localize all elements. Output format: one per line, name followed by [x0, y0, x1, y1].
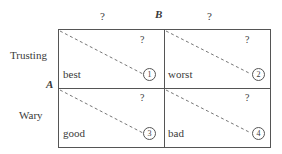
column-marker-left: ?: [100, 11, 105, 22]
cell-4-question-mark: ?: [245, 93, 249, 103]
cell-4-circled-number: 4: [252, 127, 265, 140]
cell-4-outcome-word: bad: [168, 128, 184, 139]
cell-3-question-mark: ?: [140, 93, 144, 103]
cell-2-outcome-word: worst: [168, 69, 192, 80]
row-player-label: A: [46, 79, 53, 90]
cell-1-circled-number: 1: [143, 68, 156, 81]
cell-3-outcome-word: good: [63, 128, 85, 139]
row-label-wary: Wary: [19, 110, 43, 121]
cell-3-circled-number: 3: [143, 127, 156, 140]
cell-2-question-mark: ?: [245, 35, 249, 45]
cell-1-question-mark: ?: [140, 35, 144, 45]
matrix-diagram: ? B ? Trusting Wary A ? ? ? ? best worst…: [0, 0, 282, 154]
column-marker-right: ?: [207, 11, 212, 22]
cell-2-circled-number: 2: [252, 68, 265, 81]
cell-1-outcome-word: best: [63, 69, 81, 80]
matrix-grid-and-arrows: [0, 0, 282, 154]
column-player-label: B: [155, 9, 162, 20]
row-label-trusting: Trusting: [10, 50, 47, 61]
